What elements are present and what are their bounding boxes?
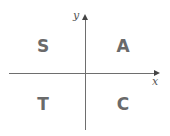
quadrant-4-label: C — [113, 94, 133, 114]
y-axis-label: y — [73, 9, 79, 22]
quadrant-1-label: A — [113, 36, 133, 56]
y-axis-arrow-icon — [82, 14, 88, 20]
x-axis-label: x — [152, 75, 158, 88]
quadrant-3-label: T — [33, 94, 53, 114]
y-axis — [85, 18, 86, 130]
quadrant-2-label: S — [33, 36, 53, 56]
x-axis — [9, 73, 156, 74]
